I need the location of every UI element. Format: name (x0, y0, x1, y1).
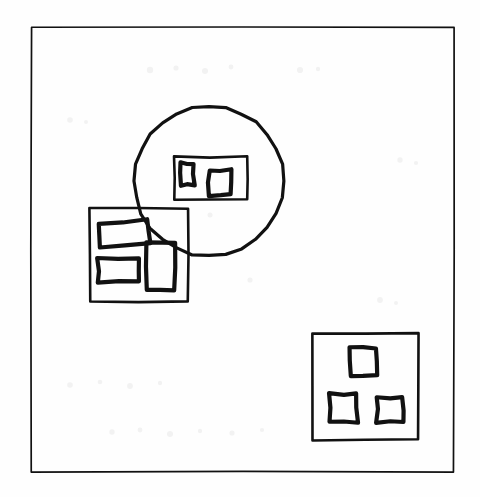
left-square-rect-bottom (97, 258, 139, 283)
sketch-drawing (0, 0, 480, 497)
scan-speckles (67, 65, 418, 437)
bottom-right-small-square-left (329, 393, 358, 423)
circle-inner-rect-small-1 (180, 162, 195, 186)
left-square-rect-top (99, 219, 151, 247)
sketch-canvas: A scanned hand-drawn line sketch: a thin… (0, 0, 480, 497)
circle-inner-rect-small-2 (208, 169, 231, 196)
bottom-right-small-square-right (376, 397, 403, 423)
bottom-right-small-square-top (350, 347, 378, 376)
left-square-rect-right (146, 242, 175, 290)
